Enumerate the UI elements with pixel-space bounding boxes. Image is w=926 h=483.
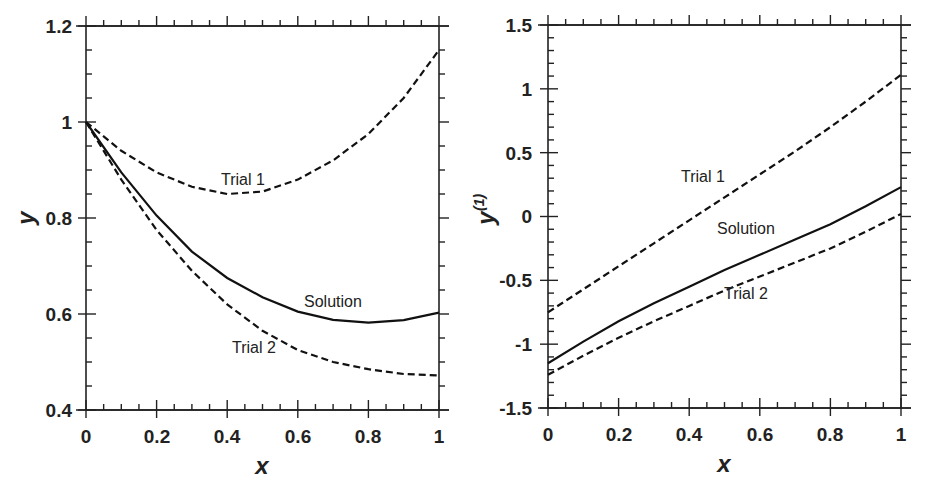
right-xtick-1: 1	[896, 424, 907, 445]
right-ytick-0.5: 0.5	[506, 143, 533, 164]
left-label-solution: Solution	[304, 293, 362, 310]
left-xtick-0.4: 0.4	[214, 426, 241, 447]
right-solution-curve	[548, 187, 901, 363]
left-xtick-1: 1	[434, 426, 445, 447]
left-x-axis-title: x	[253, 452, 270, 479]
left-label-trial1: Trial 1	[221, 171, 265, 188]
left-ytick-1.2: 1.2	[46, 16, 72, 37]
left-solution-curve	[86, 122, 439, 323]
right-y-axis-title: y (1)	[471, 194, 499, 226]
right-ytick--1: -1	[515, 334, 532, 355]
right-ytick--1.5: -1.5	[499, 398, 532, 419]
right-plot-frame	[548, 25, 901, 408]
right-y-axis-title-sup: (1)	[471, 194, 487, 211]
right-xtick-0: 0	[543, 424, 554, 445]
right-label-solution: Solution	[717, 220, 775, 237]
right-tick-marks	[540, 15, 911, 416]
left-xtick-0: 0	[81, 426, 92, 447]
left-trial2-curve	[86, 122, 439, 375]
right-ytick-0: 0	[521, 206, 532, 227]
right-x-axis-title: x	[715, 450, 732, 477]
right-plot: 1.5 1 0.5 0 -0.5 -1 -1.5 0 0.2 0.4 0.6 0…	[471, 15, 911, 477]
left-ytick-0.6: 0.6	[46, 304, 72, 325]
left-xtick-0.2: 0.2	[144, 426, 170, 447]
right-ytick--0.5: -0.5	[499, 270, 532, 291]
left-ytick-0.4: 0.4	[46, 400, 73, 421]
right-ytick-1: 1	[521, 79, 532, 100]
left-plot: 1.2 1 0.8 0.6 0.4 0 0.2 0.4 0.6 0.8 1 x …	[12, 16, 449, 479]
left-ytick-1: 1	[61, 112, 72, 133]
left-y-axis-title: y	[12, 210, 39, 226]
left-tick-marks	[78, 16, 449, 418]
right-label-trial1: Trial 1	[681, 168, 725, 185]
right-xtick-0.6: 0.6	[747, 424, 773, 445]
right-trial1-curve	[548, 75, 901, 312]
right-label-trial2: Trial 2	[724, 285, 768, 302]
right-ytick-1.5: 1.5	[506, 15, 533, 36]
left-xtick-0.6: 0.6	[285, 426, 311, 447]
left-xtick-0.8: 0.8	[355, 426, 381, 447]
right-xtick-0.8: 0.8	[817, 424, 843, 445]
right-xtick-0.4: 0.4	[676, 424, 703, 445]
right-xtick-0.2: 0.2	[606, 424, 632, 445]
figure: 1.2 1 0.8 0.6 0.4 0 0.2 0.4 0.6 0.8 1 x …	[0, 0, 926, 483]
left-ytick-0.8: 0.8	[46, 208, 72, 229]
right-y-axis-title-base: y	[472, 210, 499, 226]
left-label-trial2: Trial 2	[232, 339, 276, 356]
